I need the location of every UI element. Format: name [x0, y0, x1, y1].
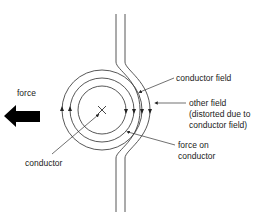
- force-arrow-icon: [4, 105, 40, 127]
- force-label: force: [17, 88, 36, 98]
- leader-conductor-field: [140, 78, 174, 92]
- conductor-cross-icon: [98, 106, 106, 114]
- conductor-field-label: conductor field: [176, 73, 231, 83]
- arrow-down-icon: [148, 109, 152, 114]
- other-field-label-line3: conductor field): [189, 120, 247, 130]
- arrow-down-icon: [132, 109, 136, 114]
- other-field-line-outer: [125, 14, 150, 212]
- other-field-line-inner: [116, 14, 140, 212]
- arrow-down-icon: [124, 109, 128, 114]
- other-field-lines: [116, 14, 150, 212]
- force-on-conductor-label-line2: conductor: [178, 151, 215, 161]
- arrow-up-icon: [60, 106, 64, 111]
- other-field-label-line2: (distorted due to: [189, 109, 250, 119]
- arrow-up-icon: [68, 106, 72, 111]
- conductor-label: conductor: [25, 158, 62, 168]
- leader-force-on-conductor: [128, 132, 175, 145]
- field-direction-arrows: [60, 106, 152, 114]
- leader-lines: [52, 78, 186, 154]
- other-field-label-line1: other field: [189, 98, 226, 108]
- force-on-conductor-label-line1: force on: [178, 140, 209, 150]
- arrow-down-icon: [140, 109, 144, 114]
